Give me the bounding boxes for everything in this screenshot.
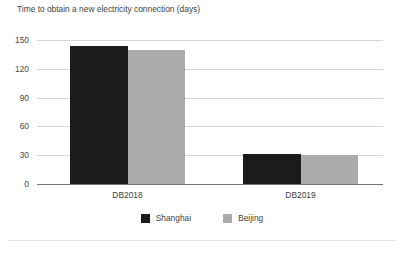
x-axis-label-DB2018: DB2018 [112, 190, 142, 200]
gridline-150 [37, 40, 383, 41]
x-axis-baseline [37, 184, 383, 185]
y-axis-tick-label: 60 [20, 121, 29, 131]
bar-shanghai-DB2019[interactable] [243, 154, 301, 184]
chart-legend: Shanghai Beijing [0, 213, 404, 223]
bar-beijing-DB2019[interactable] [301, 155, 359, 184]
plot-area [37, 40, 383, 184]
legend-item-shanghai[interactable]: Shanghai [141, 213, 191, 223]
bottom-divider [8, 240, 396, 241]
bar-beijing-DB2018[interactable] [128, 50, 186, 184]
chart-title: Time to obtain a new electricity connect… [17, 4, 257, 16]
y-axis-tick-label: 150 [15, 35, 29, 45]
y-axis-tick-label: 120 [15, 64, 29, 74]
legend-label-beijing: Beijing [238, 213, 263, 223]
legend-label-shanghai: Shanghai [156, 213, 191, 223]
legend-item-beijing[interactable]: Beijing [223, 213, 263, 223]
x-axis-label-DB2019: DB2019 [285, 190, 315, 200]
y-axis-labels: 0306090120150 [0, 40, 33, 184]
y-axis-tick-label: 30 [20, 150, 29, 160]
y-axis-tick-label: 0 [24, 179, 29, 189]
legend-swatch-icon-beijing [223, 214, 232, 223]
legend-swatch-icon-shanghai [141, 214, 150, 223]
y-axis-tick-label: 90 [20, 93, 29, 103]
bar-shanghai-DB2018[interactable] [70, 46, 128, 184]
